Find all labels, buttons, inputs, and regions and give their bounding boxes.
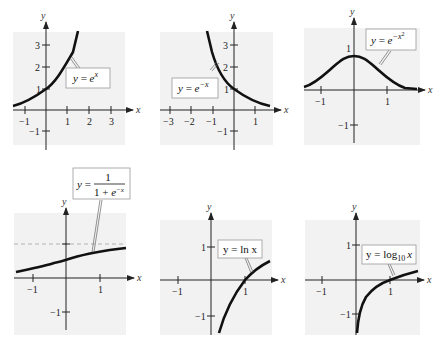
graph-exp-x: x y −1 1 2 3 1 2 3 −1 y = ex <box>13 10 141 150</box>
panel-background <box>14 213 126 335</box>
graph-gaussian: x y −1 1 1 −1 y = e−x2 <box>304 6 433 145</box>
y-axis-label: y <box>349 6 355 17</box>
y-axis-label: y <box>229 10 235 21</box>
x-tick-label: −3 <box>163 116 174 127</box>
y-tick-label: −1 <box>217 126 228 137</box>
x-tick-label: 1 <box>385 96 390 107</box>
x-tick-label: 1 <box>65 116 70 127</box>
y-tick-label: −1 <box>29 126 40 137</box>
y-axis-label: y <box>206 201 212 212</box>
x-axis-label: x <box>426 274 432 285</box>
x-tick-label: 3 <box>109 116 114 127</box>
y-tick-label: 1 <box>346 43 351 54</box>
y-tick-label: 2 <box>223 62 228 73</box>
y-axis-label: y <box>61 196 67 207</box>
x-axis-label: x <box>135 104 141 115</box>
y-tick-label: 1 <box>346 240 351 251</box>
x-tick-label: −2 <box>184 116 195 127</box>
x-tick-label: −1 <box>315 96 326 107</box>
x-axis-label: x <box>280 274 286 285</box>
panel-background <box>160 220 272 335</box>
x-tick-label: 1 <box>253 116 258 127</box>
y-tick-label: 3 <box>223 40 228 51</box>
x-axis-label: x <box>427 84 433 95</box>
graph-exp-neg-x: x y −3 −2 −1 1 1 2 3 −1 y = e−x <box>160 10 289 150</box>
x-tick-label: 1 <box>388 286 393 297</box>
x-tick-label: −1 <box>27 284 38 295</box>
y-tick-label: −1 <box>340 309 351 320</box>
y-tick-label: 1 <box>201 242 206 253</box>
x-axis-label: x <box>136 272 142 283</box>
graph-ln-x: x y −1 1 1 −1 y = ln x <box>160 201 286 335</box>
equation-label: y = ln x <box>223 243 258 255</box>
x-tick-label: 1 <box>98 284 103 295</box>
equation-label-lhs: y = <box>76 178 91 190</box>
y-tick-label: −1 <box>195 311 206 322</box>
y-tick-label: −1 <box>50 307 61 318</box>
graph-log10-x: x y −1 1 1 −1 y = log10x <box>305 201 432 335</box>
x-tick-label: 1 <box>243 286 248 297</box>
y-tick-label: 2 <box>35 62 40 73</box>
y-axis-label: y <box>40 10 46 21</box>
x-tick-label: 2 <box>87 116 92 127</box>
function-graphs-figure: x y −1 1 2 3 1 2 3 −1 y = ex x y <box>0 0 442 345</box>
x-tick-label: −1 <box>172 286 183 297</box>
y-axis-label: y <box>351 201 357 212</box>
y-tick-label: 3 <box>35 40 40 51</box>
x-tick-label: −1 <box>316 286 327 297</box>
graph-logistic: x y −1 1 −1 y = 1 1 + e−x <box>14 168 142 335</box>
y-tick-label: −1 <box>338 120 349 131</box>
x-axis-label: x <box>283 104 289 115</box>
x-tick-label: −1 <box>206 116 217 127</box>
equation-numerator: 1 <box>105 171 111 183</box>
